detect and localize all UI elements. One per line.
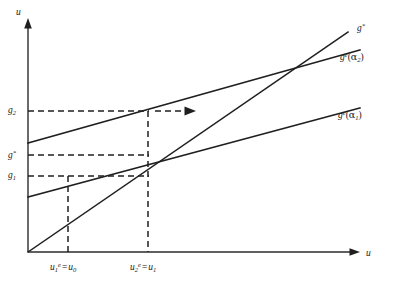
- y-tick-g1-sub: 1: [13, 174, 16, 181]
- diagram-canvas: [0, 0, 394, 291]
- curve-label-g-star-sup: *: [362, 22, 365, 29]
- x-axis-label: u: [366, 249, 371, 259]
- y-tick-g2-sub: 2: [13, 109, 16, 116]
- x-tick-label-u1e: u1e=u0: [50, 262, 76, 273]
- figure-container: u u g2 g* g1 u1e=u0 u2e=u1 g* ge(α2) ge(…: [0, 0, 394, 291]
- curve-label-g-star: g*: [357, 23, 365, 33]
- x-tick-label-u2e: u2e=u1: [130, 262, 156, 273]
- motion-arrow-icon: [155, 107, 196, 116]
- x-tick-u1e-sub2: 0: [73, 266, 76, 273]
- curve-label-g-alpha1: ge(α1): [338, 110, 362, 121]
- curve-label-g-alpha2: ge(α2): [340, 52, 364, 63]
- y-tick-label-g1: g1: [8, 171, 16, 181]
- x-axis: [28, 248, 360, 256]
- x-tick-u2e-sub2: 1: [153, 266, 156, 273]
- curve-label-g-alpha1-close-paren: ): [358, 110, 361, 120]
- curve-label-g-alpha2-close-paren: ): [360, 52, 363, 62]
- y-axis: [24, 18, 32, 252]
- curve-g-alpha2: [28, 50, 360, 143]
- y-tick-label-gstar: g*: [8, 150, 16, 160]
- y-axis-label: u: [16, 8, 21, 18]
- curve-g-star: [28, 32, 348, 252]
- curve-g-alpha1: [28, 108, 360, 197]
- y-tick-label-g2: g2: [8, 106, 16, 116]
- y-tick-gstar-sup: *: [13, 149, 16, 156]
